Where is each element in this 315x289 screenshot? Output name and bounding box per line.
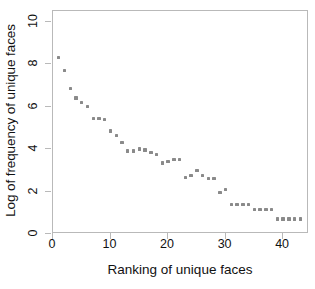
data-point — [172, 158, 175, 161]
x-axis-title: Ranking of unique faces — [52, 262, 308, 277]
data-point — [270, 208, 273, 211]
data-point — [218, 191, 221, 194]
data-point — [120, 141, 123, 144]
data-point — [92, 117, 95, 120]
x-axis-title-text: Ranking of unique faces — [108, 262, 253, 277]
data-point — [224, 188, 227, 191]
y-tick-mark — [45, 148, 51, 149]
data-point — [207, 177, 210, 180]
data-point — [161, 161, 164, 164]
y-tick-mark — [45, 233, 51, 234]
data-point — [235, 203, 238, 206]
data-point — [264, 208, 267, 211]
x-tick-mark — [52, 233, 53, 239]
data-point — [247, 203, 250, 206]
y-tick-label: 10 — [22, 14, 44, 28]
y-tick-mark — [45, 106, 51, 107]
data-point — [57, 56, 60, 59]
data-point — [287, 217, 290, 220]
data-point — [258, 208, 261, 211]
data-point — [69, 87, 72, 90]
data-point — [212, 177, 215, 180]
data-point — [178, 158, 181, 161]
data-points-layer — [53, 11, 307, 232]
data-point — [74, 96, 77, 99]
data-point — [155, 153, 158, 156]
data-point — [166, 160, 169, 163]
data-point — [230, 203, 233, 206]
y-axis-title-text: Log of frequency of unique faces — [3, 24, 18, 217]
data-point — [63, 69, 66, 72]
data-point — [103, 118, 106, 121]
data-point — [299, 217, 302, 220]
data-point — [149, 151, 152, 154]
data-point — [184, 176, 187, 179]
x-tick-mark — [167, 233, 168, 239]
data-point — [281, 217, 284, 220]
data-point — [138, 147, 141, 150]
data-point — [201, 174, 204, 177]
y-tick-label: 6 — [22, 99, 44, 113]
data-point — [126, 149, 129, 152]
x-axis-tick-labels: 010203040 — [0, 236, 315, 254]
y-tick-label: 2 — [22, 184, 44, 198]
data-point — [293, 217, 296, 220]
data-point — [241, 203, 244, 206]
data-point — [80, 101, 83, 104]
data-point — [253, 208, 256, 211]
data-point — [132, 149, 135, 152]
y-tick-mark — [45, 21, 51, 22]
plot-area — [52, 10, 308, 233]
data-point — [276, 217, 279, 220]
y-axis-title: Log of frequency of unique faces — [0, 0, 20, 240]
y-tick-mark — [45, 191, 51, 192]
data-point — [109, 129, 112, 132]
x-tick-mark — [282, 233, 283, 239]
data-point — [115, 134, 118, 137]
y-tick-label: 8 — [22, 56, 44, 70]
y-tick-label: 4 — [22, 141, 44, 155]
x-tick-mark — [225, 233, 226, 239]
x-tick-mark — [110, 233, 111, 239]
data-point — [189, 174, 192, 177]
data-point — [86, 105, 89, 108]
scatter-plot-figure: Log of frequency of unique faces 0246810… — [0, 0, 315, 289]
data-point — [97, 117, 100, 120]
y-tick-mark — [45, 63, 51, 64]
data-point — [195, 169, 198, 172]
data-point — [143, 148, 146, 151]
